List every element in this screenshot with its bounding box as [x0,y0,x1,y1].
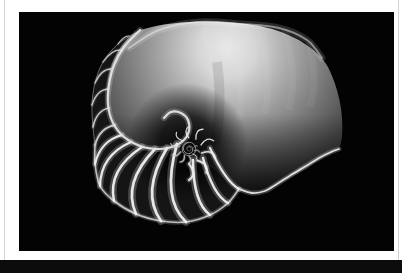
nautilus-photo [19,12,394,251]
left-margin-hairline [4,0,5,260]
right-margin-hairline [398,0,399,260]
nautilus-shell-illustration [19,12,394,251]
page-background [0,0,402,273]
bottom-black-bar [0,260,402,273]
